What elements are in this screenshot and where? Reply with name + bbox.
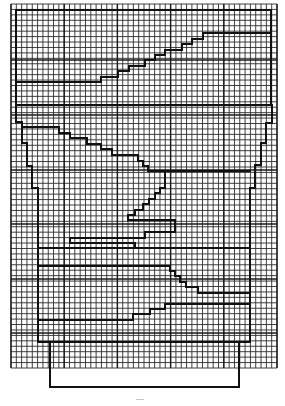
- base-block: [50, 342, 239, 387]
- inner-stair-down: [22, 127, 250, 171]
- page-mark: [136, 399, 144, 400]
- grid-diagram: [0, 0, 285, 406]
- outer-top-frame: [16, 10, 271, 104]
